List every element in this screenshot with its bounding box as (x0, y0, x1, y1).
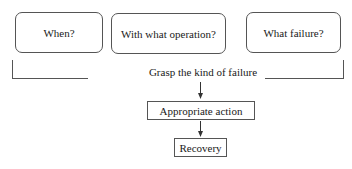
arrow-down-icon (198, 121, 203, 137)
question-box-operation: With what operation? (111, 13, 226, 54)
question-label: What failure? (263, 27, 323, 39)
merge-label: Grasp the kind of failure (145, 66, 261, 78)
question-box-failure: What failure? (246, 12, 341, 53)
question-box-when: When? (15, 12, 103, 53)
step-box-recovery: Recovery (174, 138, 227, 157)
right-bracket (265, 60, 344, 79)
left-bracket (12, 60, 88, 79)
question-label: When? (43, 27, 74, 39)
arrow-down-icon (198, 82, 203, 99)
step-label: Recovery (179, 142, 221, 154)
question-label: With what operation? (121, 28, 216, 40)
failure-recovery-diagram: When? With what operation? What failure?… (0, 0, 352, 169)
step-label: Appropriate action (160, 105, 243, 117)
step-box-appropriate-action: Appropriate action (147, 101, 255, 120)
